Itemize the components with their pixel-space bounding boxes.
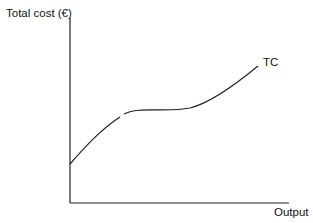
tc-curve-segment-1 xyxy=(70,117,120,164)
plot-area xyxy=(0,0,313,223)
tc-curve-segment-2 xyxy=(124,66,258,114)
